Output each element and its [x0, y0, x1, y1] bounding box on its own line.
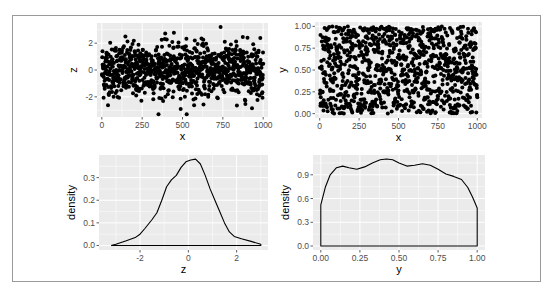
x-tick-label: 0: [99, 120, 104, 130]
x-tick-label: 0.75: [430, 253, 447, 263]
y-tick-label: 0.6: [297, 194, 309, 204]
x-axis-title: x: [396, 131, 402, 143]
y-axis-title: y: [276, 67, 288, 73]
y-tick-label: 0.3: [297, 217, 309, 227]
x-tick-label: 500: [175, 120, 189, 130]
x-tick-label: 1000: [468, 121, 487, 131]
y-tick-label: 0.50: [294, 65, 311, 75]
x-tick-label: 250: [135, 120, 149, 130]
scatter-x-z-panel: 02505007501000-202xz: [67, 23, 272, 142]
x-tick-label: 0.00: [313, 253, 330, 263]
y-tick-label: 0.2: [83, 195, 95, 205]
scatter-x-y-panel: 025050075010000.000.250.500.751.00xy: [276, 21, 487, 143]
y-tick-label: 0.1: [83, 218, 95, 228]
y-axis-title: density: [65, 185, 77, 220]
x-tick-label: 0.25: [352, 253, 369, 263]
x-tick-label: 250: [352, 121, 366, 131]
x-axis-title: x: [180, 130, 186, 142]
chart-canvas: 02505007501000-202xz025050075010000.000.…: [0, 0, 553, 295]
x-tick-label: 0.50: [391, 253, 408, 263]
density-y-panel: 0.000.250.500.751.000.00.30.60.9ydensity: [279, 155, 486, 275]
x-tick-label: 0: [317, 121, 322, 131]
x-tick-label: 750: [431, 121, 445, 131]
y-tick-label: 0.9: [297, 170, 309, 180]
x-tick-label: -2: [136, 253, 144, 263]
y-tick-label: 1.00: [294, 21, 311, 31]
x-tick-label: 1000: [254, 120, 273, 130]
y-tick-label: 0.75: [294, 43, 311, 53]
y-tick-label: 0.00: [294, 109, 311, 119]
density-z-panel: -2020.00.10.20.3zdensity: [65, 155, 268, 275]
x-axis-title: z: [181, 263, 187, 275]
plot-background: [99, 155, 268, 250]
y-axis-title: z: [67, 67, 79, 73]
y-axis-title: density: [279, 185, 291, 220]
y-tick-label: 2: [88, 38, 93, 48]
y-tick-label: 0.25: [294, 87, 311, 97]
y-tick-label: 0.0: [297, 241, 309, 251]
x-axis-title: y: [396, 263, 402, 275]
x-tick-label: 0: [186, 253, 191, 263]
y-tick-label: 0.3: [83, 173, 95, 183]
x-tick-label: 2: [234, 253, 239, 263]
y-tick-label: 0: [88, 65, 93, 75]
x-tick-label: 500: [391, 121, 405, 131]
x-tick-label: 750: [216, 120, 230, 130]
y-tick-label: -2: [85, 92, 93, 102]
x-tick-label: 1.00: [469, 253, 486, 263]
y-tick-label: 0.0: [83, 240, 95, 250]
